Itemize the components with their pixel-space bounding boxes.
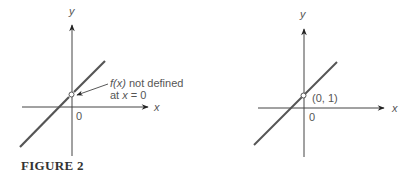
annotation-line-2: at x = 0 [110, 89, 146, 101]
left-graph: y x 0 f(x) not defined at x = 0 [20, 5, 183, 156]
figure-caption: FIGURE 2 [21, 158, 84, 173]
annotation-line-1: f(x) not defined [110, 77, 183, 89]
right-graph: y x 0 (0, 1) [254, 8, 398, 157]
left-function-line-upper [74, 61, 105, 92]
right-open-point [301, 93, 306, 98]
left-open-point [69, 92, 74, 97]
left-x-axis-label: x [153, 101, 160, 113]
left-origin-label: 0 [76, 110, 82, 122]
right-origin-label: 0 [309, 111, 315, 123]
left-function-line-lower [20, 97, 69, 147]
right-x-axis-label: x [391, 102, 398, 114]
left-y-axis-label: y [68, 5, 76, 17]
figure-canvas: y x 0 f(x) not defined at x = 0 y x 0 (0… [0, 0, 417, 174]
right-point-label: (0, 1) [312, 92, 338, 104]
right-y-axis-label: y [299, 8, 307, 20]
